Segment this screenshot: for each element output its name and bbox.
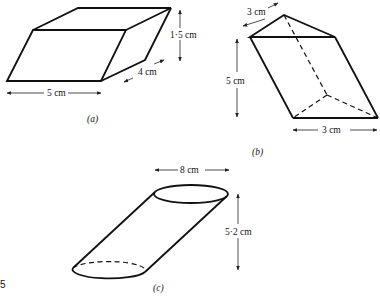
figure-c-oblique-cylinder: 8 cm 5·2 cm (c) (73, 165, 253, 294)
height-label: 1·5 cm (170, 30, 197, 40)
diameter-label: 8 cm (180, 165, 199, 175)
top-face (33, 8, 171, 30)
bottom-ellipse-visible (73, 268, 145, 278)
side-face (101, 8, 171, 81)
top-dim-arrow-left (243, 19, 265, 26)
figure-a-parallelepiped: 5 cm 4 cm 1·5 cm (a) (7, 8, 197, 125)
top-edge-label: 3 cm (247, 7, 266, 17)
depth-label: 4 cm (138, 67, 157, 77)
depth-dim-arrow-lower (124, 78, 133, 82)
base-label: 3 cm (322, 125, 341, 135)
hidden-lateral-edge (284, 15, 327, 95)
height-label: 5·2 cm (225, 227, 252, 237)
caption-a: (a) (87, 114, 98, 125)
left-generator-line (73, 192, 155, 268)
hidden-base-edge-right (327, 95, 378, 118)
bottom-ellipse-hidden (73, 262, 145, 272)
caption-c: (c) (153, 283, 164, 294)
front-face (7, 30, 126, 81)
figure-b-triangular-prism: 3 cm 5 cm 3 cm (b) (226, 3, 378, 158)
hidden-base-edge-left (293, 95, 327, 118)
top-triangle (250, 15, 335, 37)
diagram-canvas: 5 cm 4 cm 1·5 cm (a) 3 cm 5 cm 3 cm (b) (0, 0, 380, 296)
caption-b: (b) (252, 147, 263, 158)
right-lateral-edge (335, 37, 378, 118)
top-dim-arrow-right (268, 3, 278, 8)
height-label: 5 cm (226, 76, 245, 86)
page-number: 5 (0, 279, 6, 290)
depth-dim-arrow-upper (154, 60, 164, 64)
left-lateral-edge (250, 37, 293, 118)
top-ellipse (154, 185, 228, 203)
right-generator-line (145, 196, 227, 272)
width-label: 5 cm (47, 88, 66, 98)
